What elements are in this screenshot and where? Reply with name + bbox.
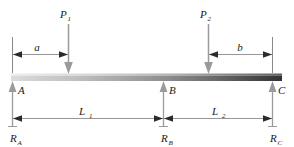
dimension-l2-group: L 2 (164, 105, 272, 122)
beam-diagram: a b P 1 P 2 (0, 0, 294, 147)
reaction-b-subscript: B (169, 139, 174, 147)
arrowhead-b-left (209, 51, 218, 58)
support-b-label: B (169, 84, 176, 96)
dimension-l2-label: L (211, 105, 218, 117)
arrowhead-b-right (263, 51, 272, 58)
reaction-a-symbol: R (9, 132, 17, 144)
dimension-l1-label: L (78, 105, 85, 117)
load-p1-arrowhead (64, 62, 73, 74)
dimension-a-group: a (13, 37, 69, 73)
load-p2-group: P 2 (199, 8, 213, 74)
reaction-c-arrowhead (269, 81, 277, 92)
dimension-a-label: a (34, 41, 40, 53)
reaction-b-arrowhead (160, 81, 168, 92)
reaction-c-symbol: R (269, 132, 277, 144)
beam-top-face (11, 74, 282, 76)
load-p1-label: P (59, 8, 67, 20)
arrowhead-l2-right (263, 115, 272, 122)
dimension-b-label: b (237, 41, 243, 53)
dimension-l1-subscript: 1 (89, 112, 93, 120)
reaction-a-arrowhead (9, 81, 17, 92)
load-p2-subscript: 2 (208, 15, 212, 23)
beam-diagram-canvas: a b P 1 P 2 (0, 0, 294, 147)
support-a-group: A R A (8, 81, 25, 147)
support-a-label: A (17, 84, 25, 96)
beam-body (11, 76, 282, 81)
arrowhead-l1-left (13, 115, 22, 122)
dimension-l1-group: L 1 (13, 105, 163, 122)
load-p2-arrowhead (204, 62, 213, 74)
reaction-b-symbol: R (160, 132, 168, 144)
reaction-c-subscript: C (278, 139, 283, 147)
dimension-l2-subscript: 2 (222, 112, 226, 120)
arrowhead-l2-left (164, 115, 173, 122)
support-c-label: C (278, 84, 286, 96)
reaction-a-subscript: A (17, 139, 23, 147)
load-p2-label: P (199, 8, 207, 20)
arrowhead-l1-right (154, 115, 163, 122)
arrowhead-a-left (13, 51, 22, 58)
load-p1-subscript: 1 (68, 15, 72, 23)
beam-member (11, 74, 282, 82)
support-c-group: C R C (268, 81, 286, 147)
dimension-b-group: b (209, 37, 273, 73)
arrowhead-a-right (59, 51, 68, 58)
load-p1-group: P 1 (59, 8, 73, 74)
support-b-group: B R B (159, 81, 176, 147)
